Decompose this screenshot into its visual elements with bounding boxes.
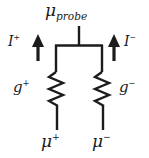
- current-right-superscript: −: [130, 33, 136, 42]
- potential-right-superscript: −: [103, 131, 111, 142]
- current-arrow-left: [32, 34, 44, 61]
- current-left-label: I+: [8, 34, 20, 48]
- conductance-left-label: g+: [13, 79, 29, 95]
- current-arrow-right: [108, 34, 120, 61]
- conductance-right-superscript: −: [129, 78, 136, 88]
- mu-probe-label: μprobe: [45, 2, 87, 22]
- potential-left-symbol: μ: [41, 131, 52, 151]
- conductance-left-superscript: +: [23, 78, 30, 88]
- potential-left-label: μ+: [41, 132, 60, 150]
- mu-probe-symbol: μ: [45, 0, 56, 20]
- circuit-diagram: μprobe I+ I− g+ g− μ+ μ−: [0, 0, 149, 158]
- resistor-right-zigzag: [95, 72, 109, 106]
- current-right-label: I−: [124, 34, 136, 48]
- mu-probe-subscript: probe: [56, 10, 87, 22]
- potential-right-label: μ−: [92, 132, 111, 150]
- resistor-left-zigzag: [49, 72, 63, 106]
- conductance-right-label: g−: [119, 79, 135, 95]
- conductance-left-symbol: g: [13, 78, 23, 96]
- conductance-right-symbol: g: [119, 78, 129, 96]
- potential-right-symbol: μ: [92, 131, 103, 151]
- current-left-superscript: +: [14, 33, 20, 42]
- potential-left-superscript: +: [52, 131, 60, 142]
